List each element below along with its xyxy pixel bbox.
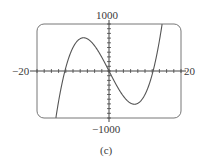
y-min-label: −1000: [92, 124, 120, 135]
x-min-label: −20: [12, 66, 29, 77]
y-max-label: 1000: [96, 10, 118, 21]
graph-figure: 1000 −1000 −20 20 (c): [0, 0, 202, 164]
plot-area: [0, 0, 202, 164]
x-max-label: 20: [184, 66, 195, 77]
figure-caption: (c): [100, 144, 112, 156]
